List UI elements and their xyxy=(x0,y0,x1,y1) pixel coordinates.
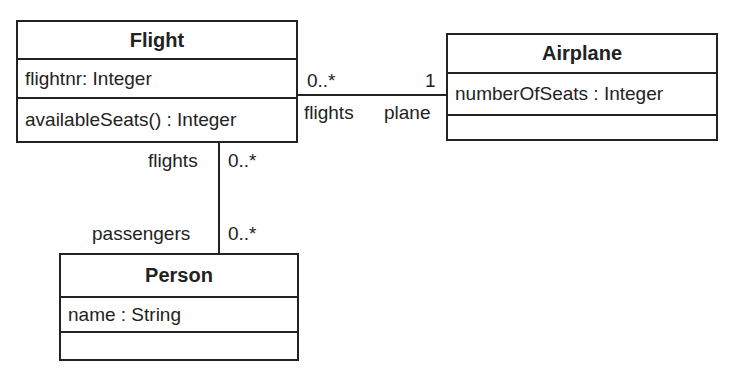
class-person-name: Person xyxy=(61,255,297,298)
role-passengers: passengers xyxy=(92,224,190,243)
class-person-attributes: name : String xyxy=(61,298,297,333)
multiplicity-flight-person-flight-end: 0..* xyxy=(228,151,257,170)
role-plane: plane xyxy=(384,103,431,122)
class-flight-name: Flight xyxy=(18,22,296,60)
class-airplane-attributes: numberOfSeats : Integer xyxy=(448,74,716,116)
class-person-operations xyxy=(61,333,297,359)
class-airplane: Airplane numberOfSeats : Integer xyxy=(446,33,718,141)
multiplicity-flight-person-person-end: 0..* xyxy=(228,224,257,243)
role-flights-airplane-assoc: flights xyxy=(304,103,354,122)
class-person: Person name : String xyxy=(59,253,299,361)
class-flight-attributes: flightnr: Integer xyxy=(18,60,296,99)
role-flights-person-assoc: flights xyxy=(148,151,198,170)
class-flight-operations: availableSeats() : Integer xyxy=(18,99,296,141)
association-line-flight-person xyxy=(218,142,220,254)
class-airplane-operations xyxy=(448,116,716,139)
multiplicity-flight-airplane-airplane-end: 1 xyxy=(425,71,436,90)
class-flight: Flight flightnr: Integer availableSeats(… xyxy=(16,20,298,143)
association-line-flight-airplane xyxy=(297,94,447,96)
class-airplane-name: Airplane xyxy=(448,35,716,74)
multiplicity-flight-airplane-flight-end: 0..* xyxy=(307,71,336,90)
